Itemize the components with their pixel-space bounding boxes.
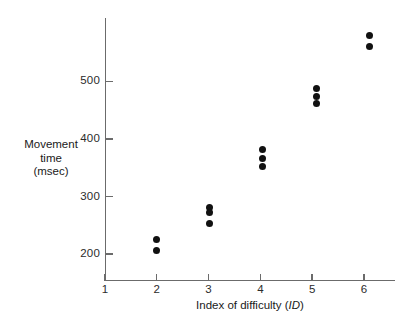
x-tick-1 xyxy=(104,274,105,281)
x-tick-label-2: 2 xyxy=(145,283,169,295)
x-tick-2 xyxy=(156,274,157,281)
data-point xyxy=(366,43,373,50)
data-point xyxy=(259,163,266,170)
y-axis-title-line-3: (msec) xyxy=(8,165,94,179)
y-axis-title-line-1: Movement xyxy=(8,138,94,152)
x-tick-label-5: 5 xyxy=(300,283,324,295)
y-axis-line xyxy=(105,18,106,281)
data-point xyxy=(259,146,266,153)
x-axis-title-tail: ) xyxy=(300,299,304,311)
x-tick-label-1: 1 xyxy=(93,283,117,295)
data-point xyxy=(313,100,320,107)
x-axis-title-text: Index of difficulty ( xyxy=(196,299,288,311)
x-tick-3 xyxy=(208,274,209,281)
x-tick-label-6: 6 xyxy=(352,283,376,295)
x-tick-4 xyxy=(260,274,261,281)
scatter-chart: 200300400500 123456 Movement time (msec)… xyxy=(0,0,416,323)
y-tick-label-300: 300 xyxy=(60,191,100,203)
x-axis-line xyxy=(105,280,395,281)
data-point xyxy=(259,155,266,162)
x-tick-label-3: 3 xyxy=(197,283,221,295)
y-tick-500 xyxy=(106,81,113,82)
x-axis-title-italic: ID xyxy=(289,299,301,311)
y-tick-label-200: 200 xyxy=(60,248,100,260)
y-tick-300 xyxy=(106,196,113,197)
x-tick-6 xyxy=(363,274,364,281)
data-point xyxy=(313,85,320,92)
data-point xyxy=(206,209,213,216)
x-tick-label-4: 4 xyxy=(248,283,272,295)
y-axis-title: Movement time (msec) xyxy=(8,138,94,179)
x-axis-title: Index of difficulty (ID) xyxy=(105,299,395,312)
y-axis-title-line-2: time xyxy=(8,152,94,166)
x-tick-5 xyxy=(311,274,312,281)
y-tick-label-500: 500 xyxy=(60,75,100,87)
y-tick-400 xyxy=(106,138,113,139)
data-point xyxy=(366,32,373,39)
data-point xyxy=(206,220,213,227)
y-tick-200 xyxy=(106,253,113,254)
data-point xyxy=(153,236,160,243)
data-point xyxy=(153,247,160,254)
